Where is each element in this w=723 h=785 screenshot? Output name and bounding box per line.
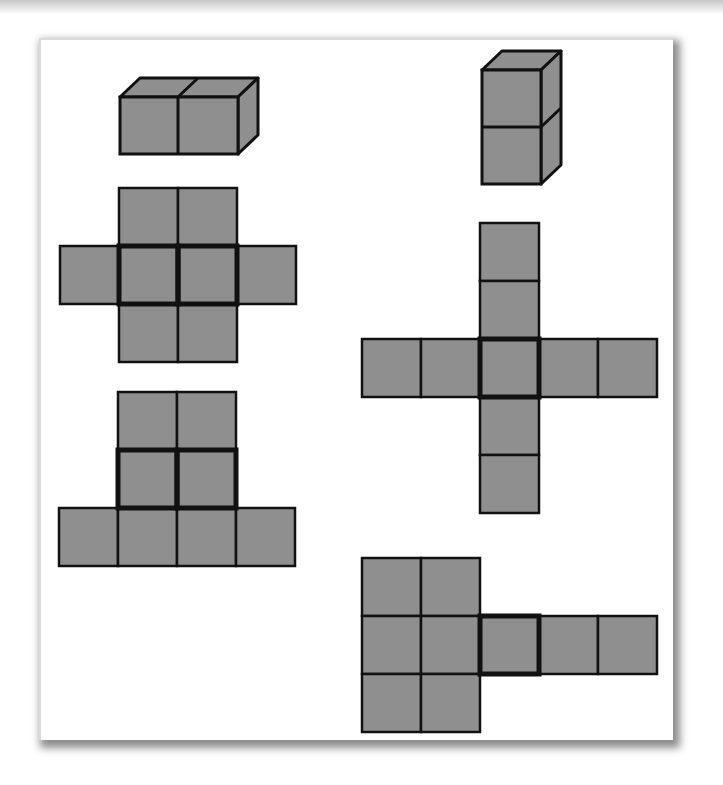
net-1-face bbox=[119, 246, 178, 304]
net-4-face bbox=[539, 616, 598, 674]
net-1-face bbox=[178, 304, 237, 362]
net-4-face bbox=[598, 616, 657, 674]
net-4-face bbox=[421, 616, 480, 674]
net-3-face bbox=[480, 397, 539, 455]
net-3-face bbox=[362, 339, 421, 397]
net-1-face bbox=[178, 246, 237, 304]
net-1-face bbox=[119, 188, 178, 246]
net-1-face bbox=[60, 246, 119, 304]
net-2-face bbox=[177, 508, 236, 566]
net-2-face bbox=[118, 450, 177, 508]
net-2-face bbox=[59, 508, 118, 566]
net-3-face bbox=[421, 339, 480, 397]
net-3-face bbox=[480, 223, 539, 281]
net-3-face bbox=[480, 339, 539, 397]
net-4-face bbox=[421, 558, 480, 616]
net-2-face bbox=[118, 392, 177, 450]
net-1-face bbox=[237, 246, 296, 304]
net-3-face bbox=[598, 339, 657, 397]
net-2-face bbox=[177, 392, 236, 450]
net-4-face bbox=[480, 616, 539, 674]
net-3-face bbox=[480, 281, 539, 339]
net-4-face bbox=[362, 674, 421, 732]
net-2-face bbox=[118, 508, 177, 566]
net-1-face bbox=[119, 304, 178, 362]
net-1-face bbox=[178, 188, 237, 246]
net-4-face bbox=[362, 616, 421, 674]
net-2-face bbox=[236, 508, 295, 566]
net-2-face bbox=[177, 450, 236, 508]
net-3-face bbox=[539, 339, 598, 397]
cube-nets-figure bbox=[0, 0, 723, 785]
net-4-face bbox=[362, 558, 421, 616]
net-3-face bbox=[480, 455, 539, 513]
net-4-face bbox=[421, 674, 480, 732]
